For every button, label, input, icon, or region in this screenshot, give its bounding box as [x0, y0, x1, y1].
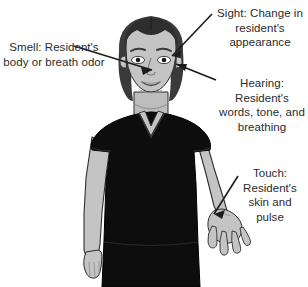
- callout-smell: Smell: Resident's body or breath odor: [2, 40, 106, 69]
- callout-touch: Touch: Resident's skin and pulse: [234, 166, 306, 224]
- callout-sight: Sight: Change in resident's appearance: [214, 6, 306, 50]
- head-group: [119, 16, 184, 101]
- callout-hearing: Hearing: Resident's words, tone, and bre…: [217, 76, 307, 134]
- sense-observation-figure: Sight: Change in resident's appearance S…: [0, 0, 308, 287]
